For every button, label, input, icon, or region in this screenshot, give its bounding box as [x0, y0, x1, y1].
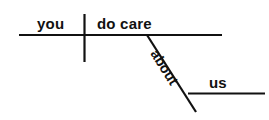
word-verb: do care	[97, 16, 152, 31]
word-subject: you	[37, 16, 64, 31]
sentence-diagram: you do care about us	[0, 0, 269, 120]
word-object-of-preposition: us	[209, 75, 227, 90]
